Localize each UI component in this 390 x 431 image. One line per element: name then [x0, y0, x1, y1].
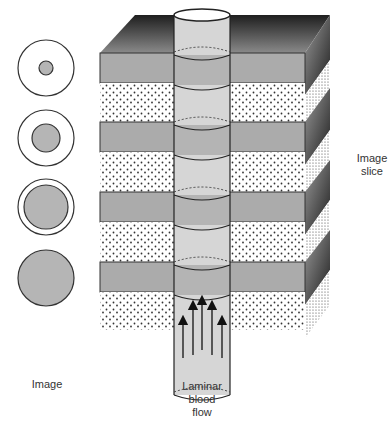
image-circles [18, 40, 74, 306]
image-label: Image [20, 378, 74, 391]
laminar-flow-label: Laminar blood flow [172, 380, 232, 419]
laminar-flow-diagram [0, 0, 390, 431]
image-circle-2 [18, 110, 74, 166]
image-circle-1 [18, 40, 74, 96]
image-slice-label: Image slice [355, 152, 389, 178]
block-side-face [305, 15, 330, 338]
image-circle-3 [18, 179, 74, 235]
image-circle-4 [18, 250, 74, 306]
